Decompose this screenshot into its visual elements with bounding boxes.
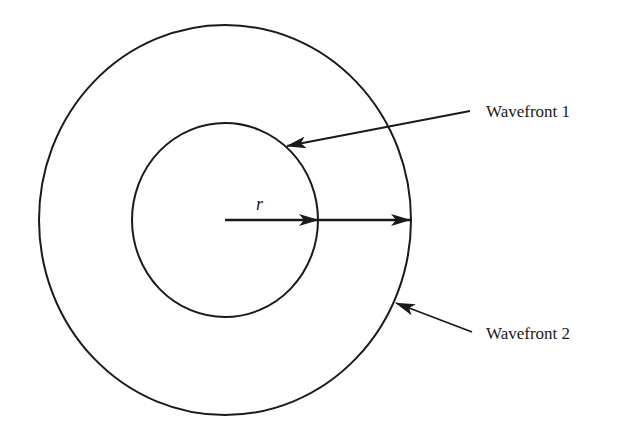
wavefront-1-pointer: [287, 111, 470, 146]
radius-label: r: [256, 194, 264, 214]
wavefront-diagram: r Wavefront 1 Wavefront 2: [0, 0, 634, 435]
wavefront-2-label: Wavefront 2: [486, 324, 570, 343]
wavefront-2-pointer: [396, 303, 472, 332]
wavefront-1-label: Wavefront 1: [486, 102, 570, 121]
